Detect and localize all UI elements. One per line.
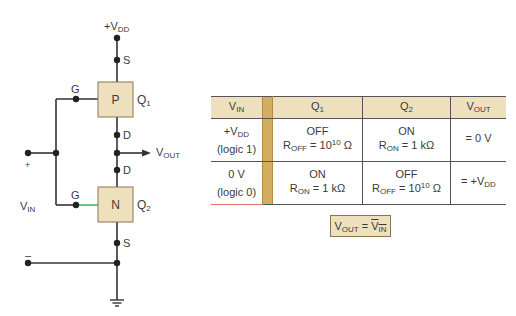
q2-type-label: N [98,198,133,212]
inverter-formula-box: VOUT = VIN [330,215,391,237]
cell-vin: 0 V (logic 0) [211,162,263,205]
q2-gate-dot [73,202,79,208]
cell-q1: OFF ROFF = 1010 Ω [273,119,363,162]
header-vin: VIN [211,97,263,119]
table-row: +VDD (logic 1) OFF ROFF = 1010 Ω ON RON … [211,119,506,162]
ground-icon [110,300,124,306]
input-minus-label: – [25,250,31,261]
vin-complement: VIN [371,220,386,232]
q1-type-label: P [98,93,133,107]
q1-source-dot [114,57,120,63]
table-header-row: VIN Q1 Q2 VOUT [211,97,506,119]
q2-drain-label: D [123,165,131,176]
q1-gate-label: G [71,84,80,95]
cell-vout: = 0 V [451,119,507,162]
q1-source-label: S [123,55,130,66]
q2-drain-dot [114,167,120,173]
column-separator-bar [263,119,273,162]
cell-q2: ON RON = 1 kΩ [363,119,451,162]
vout-label: VOUT [156,147,180,160]
q2-gate-label: G [71,190,80,201]
column-separator-bar [263,97,273,119]
output-arrow-icon [142,150,151,157]
cell-q2: OFF ROFF = 1010 Ω [363,162,451,205]
vdd-node-dot [114,35,120,41]
cell-vout: = +VDD [451,162,507,205]
header-q1: Q1 [273,97,363,119]
input-plus-label: + [25,161,30,170]
q1-gate-dot [73,96,79,102]
q1-drain-label: D [123,130,131,141]
vdd-label: +VDD [104,21,129,34]
gate-junction-dot [53,150,59,156]
header-q2: Q2 [363,97,451,119]
q2-source-dot [114,240,120,246]
q2-source-label: S [123,238,130,249]
ground-node-dot [114,260,120,266]
table-row: 0 V (logic 0) ON RON = 1 kΩ OFF ROFF = 1… [211,162,506,205]
q1-drain-dot [114,132,120,138]
truth-table: VIN Q1 Q2 VOUT +VDD (logic 1) OFF ROFF =… [211,96,506,205]
header-vout: VOUT [451,97,507,119]
vin-label: VIN [20,201,35,214]
q1-name-label: Q1 [137,94,151,108]
q2-name-label: Q2 [137,199,151,213]
input-plus-terminal [25,150,31,156]
cell-vin: +VDD (logic 1) [211,119,263,162]
column-separator-bar [263,162,273,205]
cell-q1: ON RON = 1 kΩ [273,162,363,205]
output-node-dot [114,150,120,156]
